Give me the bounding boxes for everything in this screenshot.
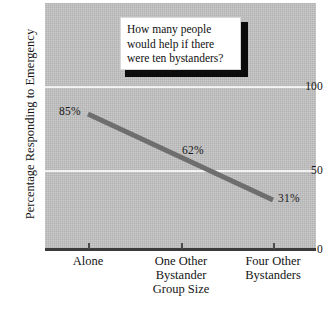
chart-figure: 100 50 0 Percentage Responding to Emerge… [0, 0, 323, 311]
x-category-label-one-other-bystander-line2: Bystander [129, 268, 233, 282]
x-category-label-four-other-bystanders: Four Other Bystanders [221, 254, 323, 282]
data-label-one-other-bystander: 62% [182, 144, 204, 156]
x-axis-title: Group Size [129, 282, 233, 296]
annotation-line-1: How many people [127, 22, 235, 37]
data-label-alone: 85% [59, 105, 81, 117]
annotation-line-2: would help if there [127, 37, 235, 52]
bottom-caption [40, 303, 320, 311]
x-category-label-four-other-bystanders-line1: Four Other [245, 254, 300, 268]
x-category-label-alone: Alone [36, 254, 140, 268]
annotation-callout: How many people would help if there were… [120, 17, 248, 77]
annotation-line-3: were ten bystanders? [127, 51, 235, 66]
x-category-label-one-other-bystander-line1: One Other [155, 254, 207, 268]
x-category-label-alone-line1: Alone [73, 254, 104, 268]
annotation-callout-box: How many people would help if there were… [120, 17, 241, 70]
x-category-label-four-other-bystanders-line2: Bystanders [221, 268, 323, 282]
x-category-label-one-other-bystander: One Other Bystander [129, 254, 233, 282]
data-label-four-other-bystanders: 31% [278, 192, 300, 204]
